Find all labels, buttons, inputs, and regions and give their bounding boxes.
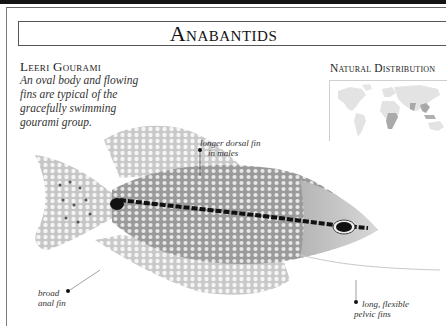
annotation-text: anal fin xyxy=(38,298,66,308)
tail-fin xyxy=(35,155,118,250)
annotation-anal-fin: broad anal fin xyxy=(38,288,66,308)
annotation-text: longer dorsal fin xyxy=(200,138,261,148)
annotation-text: in males xyxy=(200,148,261,158)
annotation-text: broad xyxy=(38,288,66,298)
annotation-pelvic-fins: long, flexible pelvic fins xyxy=(354,299,409,319)
annotation-dot xyxy=(66,289,70,293)
annotation-text: long, flexible xyxy=(354,299,409,309)
annotation-text: pelvic fins xyxy=(354,309,409,319)
annotation-dot xyxy=(198,148,202,152)
annotation-dorsal-fin: longer dorsal fin in males xyxy=(200,138,261,158)
annotation-dot xyxy=(354,300,358,304)
